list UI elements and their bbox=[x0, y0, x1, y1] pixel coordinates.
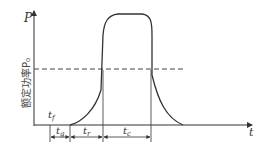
tr-label: tr bbox=[83, 125, 91, 138]
x-axis-label: t bbox=[249, 126, 254, 139]
power-pulse-diagram: P t 额定功率P₀ tf tg tr tc bbox=[0, 0, 267, 152]
rated-power-label: 额定功率P₀ bbox=[20, 58, 32, 108]
tf-label: tf bbox=[48, 109, 56, 122]
tg-label: tg bbox=[56, 125, 65, 138]
y-axis-label: P bbox=[23, 11, 33, 25]
tc-label: tc bbox=[123, 125, 131, 138]
